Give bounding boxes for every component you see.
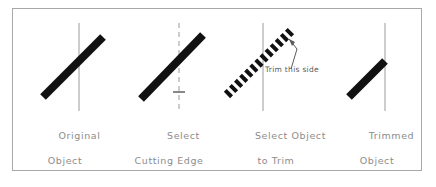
panel-select-object-to-trim-art: Trim this side <box>221 9 331 117</box>
caption-line-1: Select Object <box>255 130 326 141</box>
figure-border: Original Object Select Cutting Edge <box>12 8 422 171</box>
panel-trimmed-object: Trimmed Object <box>331 9 423 172</box>
figure-canvas: Original Object Select Cutting Edge <box>0 0 436 187</box>
trimmed-object-bar <box>349 61 385 97</box>
panel-original-object: Original Object <box>13 9 117 172</box>
caption-line-2: Cutting Edge <box>117 155 221 168</box>
caption-line-2: Object <box>331 155 423 168</box>
selected-object-bar-highlight <box>227 31 291 95</box>
caption-line-2: Object <box>13 155 117 168</box>
panel-select-object-to-trim: Trim this side Select Object to Trim <box>221 9 331 172</box>
original-object-bar <box>43 37 103 97</box>
panel-trimmed-object-caption: Trimmed Object <box>331 117 423 187</box>
trim-side-annotation: Trim this side <box>265 65 319 74</box>
caption-line-2: to Trim <box>221 155 331 168</box>
caption-line-1: Original <box>58 130 100 141</box>
panel-select-object-to-trim-caption: Select Object to Trim <box>221 117 331 187</box>
panel-select-cutting-edge-caption: Select Cutting Edge <box>117 117 221 187</box>
caption-line-1: Select <box>167 130 200 141</box>
panel-original-object-caption: Original Object <box>13 117 117 187</box>
panel-original-object-art <box>13 9 117 117</box>
panel-trimmed-object-art <box>331 9 423 117</box>
panel-select-cutting-edge-art <box>117 9 221 117</box>
caption-line-1: Trimmed <box>369 130 415 141</box>
panel-select-cutting-edge: Select Cutting Edge <box>117 9 221 172</box>
original-object-bar <box>141 35 203 99</box>
